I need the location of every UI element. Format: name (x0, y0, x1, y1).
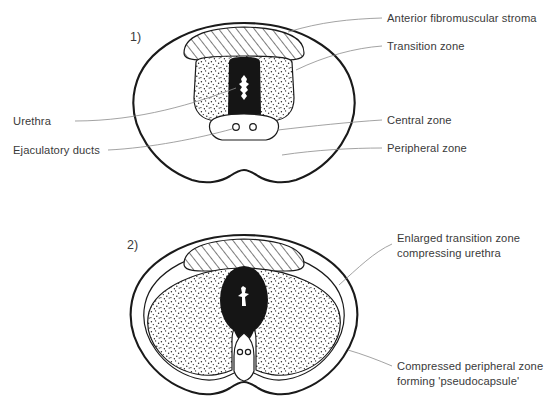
ejaculatory-duct-left-1 (233, 124, 240, 131)
label-urethra: Urethra (13, 115, 52, 127)
label-anterior-fibromuscular-stroma: Anterior fibromuscular stroma (387, 12, 537, 24)
leader-compressed-peripheral-zone (348, 350, 392, 366)
ejaculatory-duct-right-1 (250, 124, 257, 131)
central-zone-wedge-2 (234, 333, 254, 381)
ejaculatory-duct-left-2 (237, 349, 242, 354)
panel-1-number: 1) (130, 30, 141, 44)
label-compressed-peripheral-zone-line2: forming 'pseudocapsule' (397, 375, 519, 387)
ejaculatory-duct-right-2 (245, 349, 250, 354)
panel-2: 2) Enlarged transition zone compressing … (127, 232, 543, 394)
label-compressed-peripheral-zone-line1: Compressed peripheral zone (397, 360, 543, 372)
leader-anterior-fibromuscular-stroma (288, 18, 382, 32)
label-central-zone: Central zone (387, 114, 452, 126)
prostate-zonal-anatomy-figure: 1) Anterior fibromuscular stroma Transit… (0, 0, 556, 410)
central-zone-1 (210, 114, 279, 140)
label-enlarged-transition-zone-line2: compressing urethra (397, 247, 502, 259)
panel-2-number: 2) (127, 238, 138, 252)
panel-1: 1) Anterior fibromuscular stroma Transit… (13, 12, 537, 182)
label-ejaculatory-ducts: Ejaculatory ducts (13, 144, 100, 156)
label-transition-zone: Transition zone (387, 40, 465, 52)
label-peripheral-zone: Peripheral zone (387, 142, 467, 154)
label-enlarged-transition-zone-line1: Enlarged transition zone (397, 232, 520, 244)
